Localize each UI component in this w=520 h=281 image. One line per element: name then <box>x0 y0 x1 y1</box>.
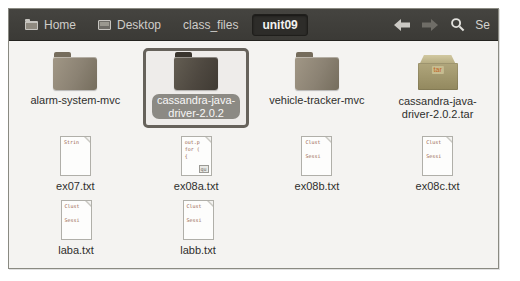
file-item-ex08b[interactable]: Clust Sessi ex08b.txt <box>257 133 378 197</box>
file-item-cassandra-tar[interactable]: tar cassandra-java- driver-2.0.2.tar <box>377 47 498 133</box>
file-item-vehicle-tracker-mvc[interactable]: vehicle-tracker-mvc <box>257 47 378 133</box>
breadcrumb-class-files[interactable]: class_files <box>175 14 246 36</box>
breadcrumb-label: Home <box>44 18 76 32</box>
breadcrumb-home[interactable]: Home <box>17 14 84 36</box>
file-manager-window: Home Desktop class_files unit09 Se <box>8 8 499 269</box>
file-label: alarm-system-mvc <box>25 94 125 107</box>
folder-icon-selected <box>174 57 218 90</box>
file-item-ex07[interactable]: Strin ex07.txt <box>15 133 136 197</box>
file-item-ex08c[interactable]: Clust Sessi ex08c.txt <box>377 133 498 197</box>
search-label: Se <box>475 18 490 32</box>
breadcrumb-label: unit09 <box>262 18 297 32</box>
file-item-laba[interactable]: Clust Sessi laba.txt <box>15 197 137 261</box>
desktop-icon <box>98 20 111 30</box>
breadcrumb-desktop[interactable]: Desktop <box>90 14 169 36</box>
back-button[interactable] <box>394 19 410 31</box>
file-item-alarm-system-mvc[interactable]: alarm-system-mvc <box>15 47 136 133</box>
back-arrow-icon <box>394 19 410 31</box>
forward-button[interactable] <box>422 19 438 31</box>
toolbar-right-group: Se <box>394 17 490 32</box>
file-label: vehicle-tracker-mvc <box>264 94 369 107</box>
file-label: laba.txt <box>53 244 98 257</box>
file-item-ex08a[interactable]: out.p for ( { qu ex08a.txt <box>136 133 257 197</box>
tar-badge: tar <box>432 66 444 74</box>
file-preview-text: Clust Sessi <box>187 203 212 223</box>
file-preview-text: Strin <box>64 139 89 146</box>
file-label: ex07.txt <box>51 180 100 193</box>
file-grid: alarm-system-mvc cassandra-java- driver-… <box>9 41 498 261</box>
file-preview-text: Clust Sessi <box>65 203 90 223</box>
breadcrumb-toolbar: Home Desktop class_files unit09 Se <box>9 9 498 41</box>
forward-arrow-icon <box>422 19 438 31</box>
text-file-icon: Clust Sessi <box>61 200 92 240</box>
file-preview-text: out.p for ( { <box>185 139 210 159</box>
file-label: ex08c.txt <box>411 180 465 193</box>
home-folder-icon <box>25 21 38 30</box>
magnifier-icon <box>450 17 465 32</box>
text-file-icon: Strin <box>60 136 91 176</box>
text-file-icon: Clust Sessi <box>183 200 214 240</box>
file-label: cassandra-java- driver-2.0.2.tar <box>393 95 481 120</box>
tar-archive-icon: tar <box>418 55 458 91</box>
file-item-labb[interactable]: Clust Sessi labb.txt <box>137 197 259 261</box>
file-label: ex08a.txt <box>169 180 224 193</box>
text-file-icon: Clust Sessi <box>301 136 332 176</box>
breadcrumb-label: Desktop <box>117 18 161 32</box>
folder-icon <box>53 57 97 90</box>
file-label: labb.txt <box>175 244 220 257</box>
file-label: ex08b.txt <box>290 180 345 193</box>
file-row-3: Clust Sessi laba.txt Clust Sessi labb.tx… <box>15 197 498 261</box>
breadcrumb-unit09[interactable]: unit09 <box>252 14 307 36</box>
text-file-icon: out.p for ( { qu <box>181 136 212 176</box>
file-label: cassandra-java- driver-2.0.2 <box>152 94 240 119</box>
file-item-cassandra-java-driver[interactable]: cassandra-java- driver-2.0.2 <box>136 47 257 133</box>
file-row-1: alarm-system-mvc cassandra-java- driver-… <box>15 47 498 133</box>
file-preview-text: Clust Sessi <box>426 139 451 159</box>
file-row-2: Strin ex07.txt out.p for ( { qu ex08a.tx… <box>15 133 498 197</box>
text-file-icon: Clust Sessi <box>422 136 453 176</box>
file-preview-text: Clust Sessi <box>305 139 330 159</box>
breadcrumb-label: class_files <box>183 18 238 32</box>
search-button[interactable] <box>450 17 465 32</box>
folder-icon <box>295 57 339 90</box>
preview-highlight-badge: qu <box>199 165 209 174</box>
